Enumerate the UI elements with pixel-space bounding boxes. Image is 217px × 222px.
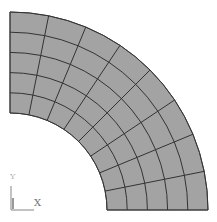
mesh-viewport[interactable] [0, 0, 217, 222]
coordinate-triad [11, 186, 34, 210]
triad-x-label: X [34, 198, 41, 208]
triad-y-label: Y [10, 173, 15, 181]
